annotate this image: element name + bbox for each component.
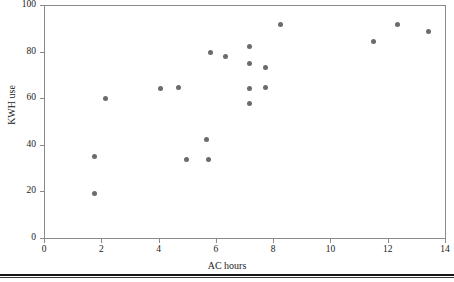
data-point [371, 39, 376, 44]
data-point [395, 22, 400, 27]
data-point [92, 154, 97, 159]
data-point [223, 54, 228, 59]
x-tick-mark [388, 239, 389, 243]
data-point [263, 65, 268, 70]
data-point [103, 96, 108, 101]
data-point [184, 157, 189, 162]
scatter-plot-figure: 020406080100 02468101214 KWH use AC hour… [0, 0, 454, 282]
data-point [158, 86, 163, 91]
x-axis-title: AC hours [0, 261, 454, 271]
data-point [426, 29, 431, 34]
data-point [278, 22, 283, 27]
y-axis-title: KWH use [7, 75, 17, 135]
data-point [208, 50, 213, 55]
x-tick-label: 12 [376, 245, 400, 255]
x-tick-mark [330, 239, 331, 243]
x-tick-label: 2 [89, 245, 113, 255]
data-point [247, 44, 252, 49]
plot-right-spine [445, 5, 446, 239]
x-tick-mark [216, 239, 217, 243]
x-tick-mark [44, 239, 45, 243]
data-point [247, 101, 252, 106]
page-bottom-rule [0, 274, 454, 276]
data-point [206, 157, 211, 162]
page-bottom-hairline [0, 277, 454, 278]
x-tick-label: 4 [147, 245, 171, 255]
x-tick-label: 14 [433, 245, 454, 255]
x-tick-mark [101, 239, 102, 243]
x-tick-mark [445, 239, 446, 243]
data-point [92, 191, 97, 196]
y-tick-label: 100 [22, 0, 36, 10]
x-tick-label: 6 [204, 245, 228, 255]
x-tick-mark [159, 239, 160, 243]
y-tick-label: 60 [27, 93, 37, 103]
y-tick-label: 0 [31, 233, 36, 243]
x-tick-label: 0 [32, 245, 56, 255]
data-point [263, 85, 268, 90]
data-point [176, 85, 181, 90]
y-tick-label: 20 [27, 186, 37, 196]
data-point [247, 61, 252, 66]
x-tick-label: 10 [318, 245, 342, 255]
x-tick-label: 8 [261, 245, 285, 255]
data-point [247, 86, 252, 91]
y-tick-label: 40 [27, 140, 37, 150]
y-tick-label: 80 [27, 47, 37, 57]
data-point [204, 137, 209, 142]
x-tick-mark [273, 239, 274, 243]
plot-area [44, 5, 445, 238]
x-axis-line [44, 238, 446, 239]
